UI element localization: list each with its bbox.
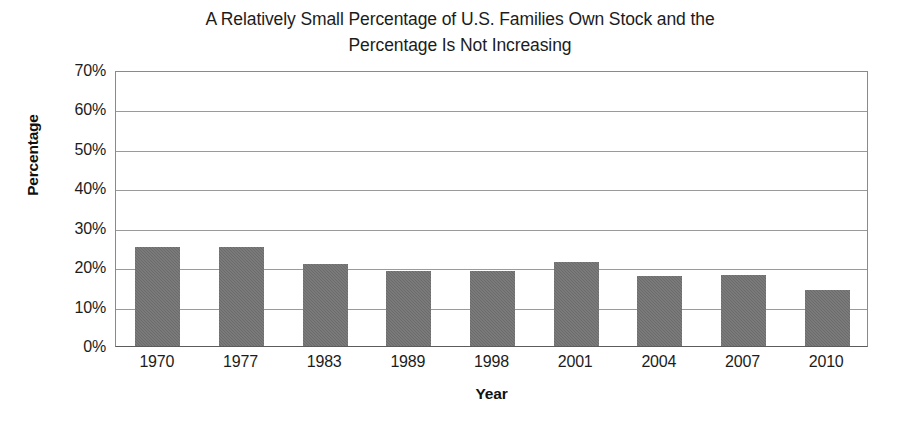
x-axis-tick-label: 2001 bbox=[533, 352, 617, 372]
chart-title-line-2: Percentage Is Not Increasing bbox=[120, 32, 800, 58]
bar bbox=[721, 275, 766, 346]
y-axis-tick-label: 50% bbox=[40, 142, 106, 158]
x-axis-tick-label: 1977 bbox=[199, 352, 283, 372]
bar bbox=[135, 247, 180, 346]
x-axis-title: Year bbox=[115, 385, 868, 403]
bar bbox=[470, 271, 515, 346]
plot-area bbox=[115, 71, 868, 347]
y-axis-tick-label: 60% bbox=[40, 102, 106, 118]
x-axis-tick-label: 1983 bbox=[282, 352, 366, 372]
bar bbox=[805, 290, 850, 346]
bar bbox=[386, 271, 431, 346]
y-axis-tick-label: 70% bbox=[40, 63, 106, 79]
y-axis-tick-label: 10% bbox=[40, 300, 106, 316]
bar bbox=[219, 247, 264, 346]
x-axis-tick-label: 2004 bbox=[617, 352, 701, 372]
y-axis-tick-label: 30% bbox=[40, 221, 106, 237]
bar bbox=[554, 262, 599, 346]
x-axis-tick-labels: 197019771983198919982001200420072010 bbox=[115, 352, 868, 378]
chart-title: A Relatively Small Percentage of U.S. Fa… bbox=[120, 6, 800, 58]
x-axis-tick-label: 1970 bbox=[115, 352, 199, 372]
chart-title-line-1: A Relatively Small Percentage of U.S. Fa… bbox=[120, 6, 800, 32]
bar bbox=[637, 276, 682, 346]
y-axis-tick-label: 20% bbox=[40, 260, 106, 276]
bar-chart: A Relatively Small Percentage of U.S. Fa… bbox=[0, 0, 899, 424]
y-axis-tick-label: 40% bbox=[40, 181, 106, 197]
x-axis-tick-label: 2007 bbox=[701, 352, 785, 372]
bar-series bbox=[116, 72, 867, 346]
y-axis-tick-labels: 0%10%20%30%40%50%60%70% bbox=[40, 71, 106, 347]
bar bbox=[303, 264, 348, 346]
x-axis-tick-label: 2010 bbox=[784, 352, 868, 372]
x-axis-tick-label: 1989 bbox=[366, 352, 450, 372]
y-axis-tick-label: 0% bbox=[40, 339, 106, 355]
x-axis-tick-label: 1998 bbox=[450, 352, 534, 372]
